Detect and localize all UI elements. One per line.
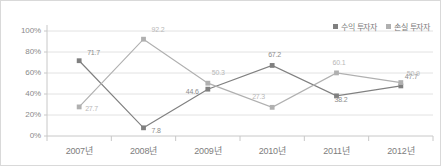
x-tick-label: 2008년: [114, 144, 174, 157]
data-label: 71.7: [87, 49, 100, 56]
series-marker: [270, 105, 275, 110]
data-label: 67.2: [268, 51, 281, 58]
legend-label: 수익 투자자: [341, 21, 377, 32]
x-tick-label: 2009년: [178, 144, 238, 157]
series-marker: [398, 80, 403, 85]
data-label: 27.3: [252, 93, 265, 100]
series-marker: [270, 63, 275, 68]
series-marker: [141, 125, 146, 130]
legend-swatch-icon: [333, 24, 338, 29]
legend-label: 손실 투자자: [394, 21, 430, 32]
series-marker: [334, 70, 339, 75]
data-label: 60.1: [333, 59, 346, 66]
y-tick-label: 40%: [11, 89, 41, 98]
y-tick-label: 20%: [11, 110, 41, 119]
x-tick-label: 2011년: [307, 144, 367, 157]
legend-item[interactable]: 손실 투자자: [386, 21, 430, 32]
series-marker: [205, 81, 210, 86]
y-tick-label: 100%: [11, 26, 41, 35]
x-tick-label: 2007년: [49, 144, 109, 157]
y-tick-label: 0%: [11, 131, 41, 140]
series-marker: [77, 58, 82, 63]
series-marker: [141, 37, 146, 42]
legend-swatch-icon: [386, 24, 391, 29]
x-tick-label: 2012년: [371, 144, 431, 157]
series-marker: [77, 105, 82, 110]
data-label: 38.2: [335, 96, 348, 103]
chart-legend: 수익 투자자손실 투자자: [333, 21, 430, 32]
x-tick-label: 2010년: [242, 144, 302, 157]
data-label: 92.2: [152, 26, 165, 33]
data-label: 44.6: [186, 88, 199, 95]
y-tick-label: 60%: [11, 68, 41, 77]
y-tick-label: 80%: [11, 47, 41, 56]
chart-container: 100%80%60%40%20%0% 2007년2008년2009년2010년2…: [0, 0, 441, 166]
legend-item[interactable]: 수익 투자자: [333, 21, 377, 32]
data-label: 50.3: [212, 69, 225, 76]
data-label: 50.9: [407, 70, 420, 77]
series-marker: [205, 87, 210, 92]
data-label: 27.7: [85, 105, 98, 112]
data-label: 7.8: [152, 127, 161, 134]
